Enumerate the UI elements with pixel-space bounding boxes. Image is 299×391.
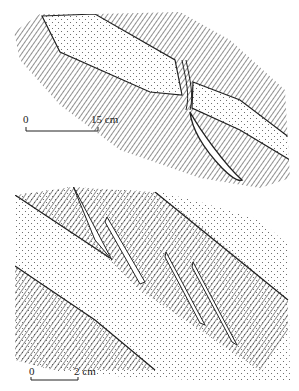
scale-top-start-label: 0 bbox=[23, 114, 29, 125]
scale-bottom-end-label: 2 cm bbox=[74, 366, 96, 377]
scale-bottom-start-label: 0 bbox=[29, 366, 35, 377]
scale-bar-bottom bbox=[31, 377, 78, 380]
top-panel bbox=[0, 0, 299, 195]
scale-top-end-label: 15 cm bbox=[91, 114, 118, 125]
scale-bar-top bbox=[26, 127, 98, 131]
geologic-figure bbox=[0, 0, 299, 391]
bottom-panel bbox=[0, 180, 299, 391]
